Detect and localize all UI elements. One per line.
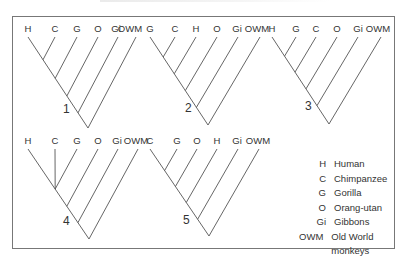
outgroup-branch (89, 149, 138, 239)
leaf-label: H (25, 135, 32, 146)
leaf-label: G (73, 135, 80, 146)
legend-abbr: OWM (290, 230, 331, 259)
leaf-label: C (172, 23, 179, 34)
leaf-label: O (213, 23, 220, 34)
legend-name: Gorilla (334, 186, 361, 201)
leaf-label: O (333, 23, 340, 34)
leaf-label: H (269, 23, 276, 34)
clade-branch (198, 149, 238, 219)
clade-branch (175, 149, 197, 187)
leaf-label: G (73, 23, 80, 34)
tree-number: 5 (183, 213, 190, 227)
legend-row-human: H Human (290, 157, 408, 172)
clade-branch (78, 149, 118, 223)
legend-name: Old World monkeys (331, 230, 408, 259)
clade-branch (67, 37, 98, 96)
cladogram-tree-2: GCHOGiOWM2 (146, 23, 269, 125)
cladogram-tree-3: HGCOGiOWM3 (269, 23, 391, 124)
leaf-label: OWM (246, 135, 270, 146)
legend-row-gorilla: G Gorilla (290, 186, 408, 201)
legend-abbr: O (290, 201, 334, 216)
legend-row-gibbons: Gi Gibbons (290, 215, 408, 230)
leaf-label: G (146, 23, 153, 34)
spine-branch (28, 37, 88, 128)
spine-branch (272, 37, 329, 124)
legend-name: Human (334, 157, 365, 172)
legend-name: Chimpanzee (334, 172, 387, 187)
spine-branch (28, 149, 89, 239)
leaf-label: H (193, 23, 200, 34)
tree-number: 3 (305, 99, 312, 113)
clade-branch (196, 37, 238, 107)
clade-branch (317, 37, 358, 106)
leaf-label: Gi (232, 135, 242, 146)
legend: H Human C Chimpanzee G Gorilla O Orang-u… (290, 157, 408, 259)
clade-branch (78, 37, 118, 113)
leaf-label: C (147, 135, 154, 146)
legend-row-chimpanzee: C Chimpanzee (290, 172, 408, 187)
cladogram-tree-4: HCGOGiOWM4 (25, 135, 149, 239)
outgroup-branch (88, 37, 136, 128)
leaf-label: C (313, 23, 320, 34)
leaf-label: H (25, 23, 32, 34)
leaf-label: OWM (118, 23, 142, 34)
legend-abbr: Gi (290, 215, 334, 230)
leaf-label: H (214, 135, 221, 146)
leaf-label: Gi (353, 23, 363, 34)
legend-name: Gibbons (334, 215, 369, 230)
cladogram-tree-5: CGOHGiOWM5 (147, 135, 271, 236)
clade-branch (43, 37, 55, 60)
cladogram-tree-1: HCGOGiOWM1 (25, 23, 143, 128)
clade-branch (306, 37, 337, 89)
legend-row-old-world-monkeys: OWM Old World monkeys (290, 230, 408, 259)
outgroup-branch (208, 37, 260, 125)
legend-name: Orang-utan (334, 201, 382, 216)
leaf-label: Gi (232, 23, 242, 34)
outgroup-branch (209, 149, 259, 236)
clade-branch (165, 149, 177, 171)
leaf-label: OWM (245, 23, 269, 34)
clade-branch (185, 37, 217, 91)
clade-branch (295, 37, 316, 72)
clade-branch (174, 37, 196, 74)
leaf-label: O (193, 135, 200, 146)
clade-branch (163, 37, 175, 57)
clade-branch (55, 149, 77, 189)
leaf-label: G (173, 135, 180, 146)
clade-branch (55, 37, 77, 78)
legend-row-orang-utan: O Orang-utan (290, 201, 408, 216)
leaf-label: C (52, 135, 59, 146)
leaf-label: O (94, 135, 101, 146)
legend-abbr: C (290, 172, 334, 187)
spine-branch (150, 149, 209, 236)
leaf-label: Gi (112, 135, 122, 146)
legend-abbr: H (290, 157, 334, 172)
leaf-label: C (52, 23, 59, 34)
outgroup-branch (329, 37, 381, 124)
leaf-label: OWM (366, 23, 390, 34)
tree-number: 4 (63, 214, 70, 228)
leaf-label: O (94, 23, 101, 34)
tree-number: 2 (185, 101, 192, 115)
clade-branch (67, 149, 98, 206)
tree-number: 1 (63, 102, 70, 116)
legend-abbr: G (290, 186, 334, 201)
leaf-label: G (292, 23, 299, 34)
spine-branch (150, 37, 208, 125)
leaf-label: OWM (124, 135, 148, 146)
clade-branch (285, 37, 296, 56)
